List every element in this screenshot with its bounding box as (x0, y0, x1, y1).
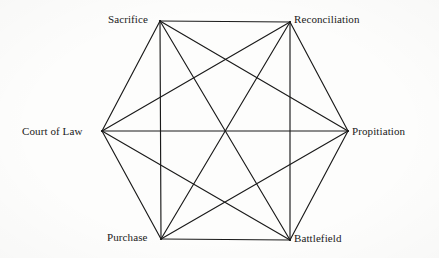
vertex-battlefield (289, 239, 291, 241)
vertex-label-propitiation: Propitiation (352, 125, 405, 137)
vertex-label-purchase: Purchase (107, 231, 148, 243)
vertex-label-reconciliation: Reconciliation (294, 13, 360, 25)
vertex-purchase (160, 238, 162, 240)
edge-court_of_law-purchase (102, 131, 161, 239)
edge-sacrifice-reconciliation (160, 21, 290, 22)
vertex-sacrifice (159, 20, 161, 22)
vertex-label-court-of-law: Court of Law (22, 125, 82, 137)
vertex-label-sacrifice: Sacrifice (108, 13, 148, 25)
vertex-court_of_law (101, 130, 103, 132)
diagram-page: Sacrifice Reconciliation Court of Law Pr… (0, 0, 439, 258)
edge-sacrifice-propitiation (160, 21, 348, 131)
vertex-label-battlefield: Battlefield (294, 232, 342, 244)
edge-sacrifice-purchase (160, 21, 161, 239)
edge-propitiation-purchase (161, 131, 348, 239)
edge-court_of_law-battlefield (102, 131, 290, 240)
edge-layer (102, 21, 348, 240)
vertex-propitiation (347, 130, 349, 132)
edge-purchase-battlefield (161, 239, 290, 240)
vertex-reconciliation (289, 21, 291, 23)
